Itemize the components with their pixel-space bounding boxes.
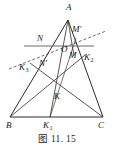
point-label-K1: K 1	[42, 120, 53, 131]
figure-caption: 图 11. 15	[0, 131, 114, 145]
geometry-figure-page: A B C N N′ M′ M O K K 1 K 2 K 3 图 11. 15	[0, 0, 114, 149]
point-label-B: B	[6, 120, 12, 130]
point-label-M-prime: M′	[71, 24, 82, 34]
point-label-K: K	[53, 91, 61, 101]
geometry-diagram: A B C N N′ M′ M O K K 1 K 2 K 3	[0, 0, 114, 149]
point-label-N-prime: N′	[38, 58, 48, 68]
point-label-M: M	[68, 50, 77, 60]
point-label-O: O	[61, 44, 68, 54]
point-label-N: N	[36, 33, 44, 43]
point-label-A: A	[65, 2, 72, 12]
point-label-K3: K 3	[18, 62, 29, 73]
point-label-K2: K 2	[83, 52, 94, 63]
point-label-C: C	[98, 120, 105, 130]
svg-text:3: 3	[26, 67, 29, 73]
svg-text:2: 2	[91, 57, 94, 63]
cevian-C-K3	[30, 63, 103, 117]
